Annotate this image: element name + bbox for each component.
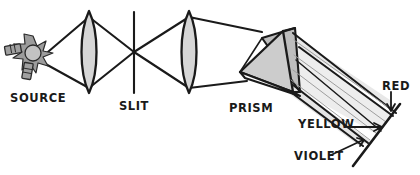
ray-lens2-top-to-prism [189, 17, 262, 32]
label-source: SOURCE [10, 91, 66, 105]
label-slit: SLIT [119, 99, 149, 113]
dispersing-prism [240, 28, 300, 96]
condenser-lens [82, 11, 97, 93]
label-yellow: YELLOW [297, 117, 355, 131]
figure-canvas: SOURCE SLIT PRISM RED YELLOW VIOLET [0, 0, 420, 175]
collimating-lens-body [182, 11, 197, 93]
collimating-lens [182, 11, 197, 93]
label-violet: VIOLET [294, 149, 344, 163]
condenser-lens-body [82, 11, 97, 93]
incident-rays-group [42, 17, 262, 88]
bulb-globe [25, 45, 41, 61]
prism-dispersion-diagram: SOURCE SLIT PRISM RED YELLOW VIOLET [0, 0, 420, 175]
label-prism: PRISM [229, 101, 273, 115]
ray-lens2-bottom-to-prism [189, 81, 247, 88]
light-source-bulb [4, 34, 53, 80]
label-red: RED [382, 79, 410, 93]
bulb-socket-left [4, 44, 21, 56]
bulb-socket-lower [22, 62, 34, 79]
